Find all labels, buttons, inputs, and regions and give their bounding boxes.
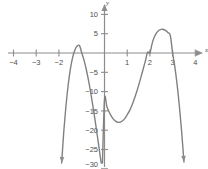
x-tick-labels: −4 −3 −2 1 2 3 4 xyxy=(9,58,197,67)
y-tick-label: −30 xyxy=(85,160,98,169)
y-tick-label: −5 xyxy=(89,68,98,77)
y-tick-label: −15 xyxy=(85,107,98,116)
y-tick-label: 5 xyxy=(94,29,98,38)
x-tick-label: −2 xyxy=(55,58,64,67)
y-tick-labels: 10 5 −5 −10 −15 −20 −25 −30 xyxy=(85,10,98,168)
x-tick-label: 2 xyxy=(148,58,152,67)
x-axis-name: x xyxy=(204,46,208,54)
curve-left-arrow-icon xyxy=(60,157,65,163)
y-tick-label: 10 xyxy=(90,10,98,19)
x-tick-label: −3 xyxy=(32,58,41,67)
graph-figure: y x −4 −3 −2 1 2 3 4 xyxy=(0,0,208,169)
y-tick-label: −25 xyxy=(85,145,98,154)
coordinate-plane: y x −4 −3 −2 1 2 3 4 xyxy=(0,0,208,169)
y-axis-name: y xyxy=(105,0,110,7)
function-curve xyxy=(62,29,184,163)
x-tick-label: 4 xyxy=(193,58,197,67)
x-tick-label: −4 xyxy=(9,58,18,67)
x-axis-arrow-icon xyxy=(196,50,203,56)
x-tick-label: 1 xyxy=(125,58,129,67)
